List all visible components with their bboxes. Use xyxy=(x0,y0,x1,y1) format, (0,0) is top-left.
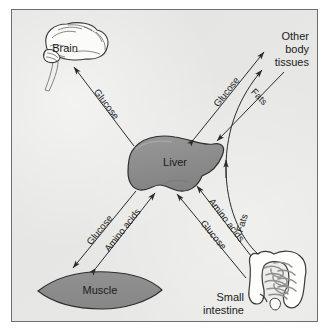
other-body-tissues-label: Other body tissues xyxy=(275,30,310,68)
edge-label-fats-intestine: Fats xyxy=(234,212,250,233)
brain-icon xyxy=(44,23,108,91)
other-tissues-line2: body xyxy=(285,43,309,55)
intestine-icon xyxy=(249,251,306,310)
small-intestine-line2: intestine xyxy=(203,304,244,316)
diagram-panel: Brain Other body tissues Liver Muscle xyxy=(11,9,318,322)
liver-label: Liver xyxy=(163,156,187,168)
metabolism-diagram: Brain Other body tissues Liver Muscle xyxy=(12,10,318,322)
small-intestine-line1: Small xyxy=(216,291,244,303)
figure-root: Brain Other body tissues Liver Muscle xyxy=(0,0,329,333)
small-intestine-label: Small intestine xyxy=(203,291,244,316)
other-tissues-line1: Other xyxy=(281,30,309,42)
muscle-label: Muscle xyxy=(83,284,118,296)
edge-label-glucose-brain: Glucose xyxy=(92,87,122,121)
edge-label-amino-muscle: Amino acids xyxy=(102,206,143,254)
other-tissues-line3: tissues xyxy=(275,56,310,68)
brain-label: Brain xyxy=(52,42,78,54)
edge-label-glucose-other: Glucose xyxy=(211,75,241,109)
